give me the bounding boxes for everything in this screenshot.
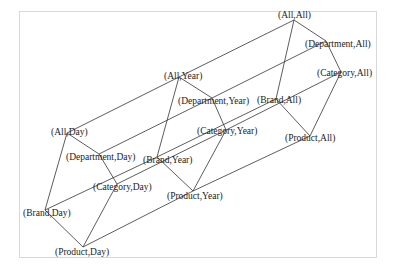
edge-CD-PD <box>83 184 117 247</box>
lattice-labels: (All,All)(Department,All)(Category,All)(… <box>23 10 372 258</box>
edge-AA-BA <box>276 20 294 99</box>
edge-AA-AY <box>179 20 294 77</box>
edge-AD-BD <box>45 133 67 210</box>
node-label: (Product,All) <box>285 133 335 144</box>
node-label: (Brand,All) <box>257 95 301 106</box>
node-label: (Brand,Year) <box>143 155 192 166</box>
node-label: (Category,All) <box>317 68 372 79</box>
edge-AY-AD <box>67 77 179 133</box>
node-label: (Category,Year) <box>197 126 257 137</box>
node-label: (Brand,Day) <box>23 208 71 219</box>
edge-CA-PA <box>310 72 341 136</box>
node-label: (All,Day) <box>51 127 88 138</box>
lattice-diagram: (All,All)(Department,All)(Category,All)(… <box>0 0 394 275</box>
node-label: (All,Year) <box>164 71 202 82</box>
node-label: (Category,Day) <box>93 182 152 193</box>
edge-CY-PY <box>193 130 226 191</box>
edge-AA-DA <box>294 20 326 41</box>
node-label: (Product,Year) <box>167 191 223 202</box>
edge-PA-PY <box>193 136 310 191</box>
node-label: (Department,All) <box>305 39 371 50</box>
node-label: (Department,Day) <box>66 152 135 163</box>
node-label: (Department,Year) <box>178 96 249 107</box>
edge-DA-DY <box>212 41 326 98</box>
node-label: (All,All) <box>278 10 311 21</box>
edge-AY-BY <box>157 77 179 157</box>
node-label: (Product,Day) <box>55 247 109 258</box>
